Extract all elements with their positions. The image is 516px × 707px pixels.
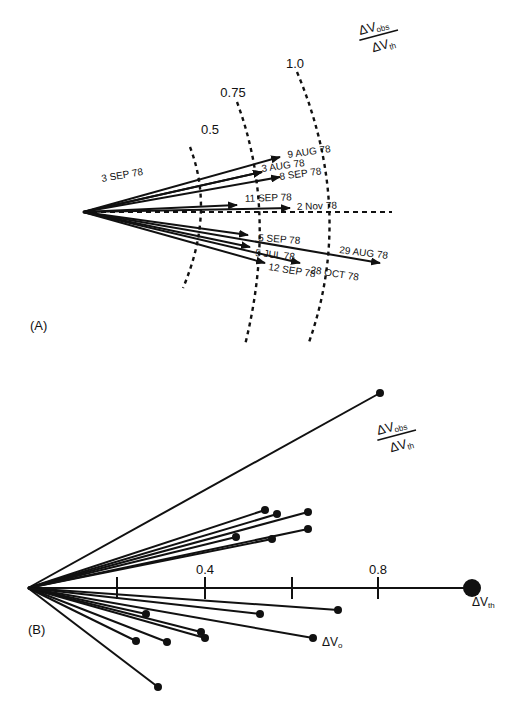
vector-endpoint	[273, 510, 281, 518]
panel-label-b: (B)	[28, 622, 45, 637]
vector-arrow	[83, 212, 265, 263]
vector-line	[28, 539, 272, 588]
vector-endpoint	[304, 508, 312, 516]
figure: 0.50.751.09 AUG 783 SEP 783 AUG 788 SEP …	[0, 0, 516, 707]
vector-endpoint	[256, 610, 264, 618]
date-label: 9 AUG 78	[287, 143, 332, 160]
vector-endpoint	[376, 389, 384, 397]
panel-label-a: (A)	[30, 318, 47, 333]
magnitude-arc-0.5	[183, 147, 201, 288]
vector-endpoint	[304, 525, 312, 533]
vector-endpoint	[261, 506, 269, 514]
date-label: 2 Nov 78	[297, 200, 338, 212]
vector-line	[28, 588, 313, 638]
vector-endpoint	[132, 637, 140, 645]
vector-arrow	[83, 212, 380, 263]
date-label: 28 OCT 78	[310, 264, 360, 283]
ratio-label-b: ΔVobsΔVth	[373, 414, 421, 459]
panel-b: 0.40.8ΔVthΔVoΔVobsΔVth(B)	[28, 389, 495, 691]
vector-endpoint	[232, 533, 240, 541]
tick-label: 0.8	[369, 562, 387, 577]
svg-text:ΔVobs: ΔVobs	[357, 16, 390, 39]
vector-endpoint	[309, 634, 317, 642]
vector-endpoint	[268, 535, 276, 543]
date-label: 29 AUG 78	[339, 244, 389, 261]
vector-endpoint	[334, 606, 342, 614]
panel-a: 0.50.751.09 AUG 783 SEP 783 AUG 788 SEP …	[30, 14, 403, 345]
vector-endpoint	[201, 634, 209, 642]
vector-line	[28, 393, 380, 588]
arc-label: 1.0	[286, 56, 304, 71]
svg-text:ΔVth: ΔVth	[388, 434, 415, 456]
vector-line	[28, 512, 308, 588]
date-label: 11 SEP 78	[245, 191, 293, 204]
arc-label: 0.5	[201, 122, 219, 137]
magnitude-arc-0.75	[237, 102, 260, 345]
vo-label: ΔVo	[322, 635, 343, 650]
threshold-label: ΔVth	[472, 595, 495, 610]
tick-label: 0.4	[196, 562, 214, 577]
ratio-label-a: ΔVobsΔVth	[355, 14, 403, 59]
svg-text:ΔVth: ΔVth	[370, 34, 397, 56]
arc-label: 0.75	[220, 85, 245, 100]
svg-text:ΔVobs: ΔVobs	[375, 416, 408, 439]
vector-endpoint	[154, 683, 162, 691]
date-label: 3 SEP 78	[100, 166, 144, 184]
vector-endpoint	[163, 638, 171, 646]
